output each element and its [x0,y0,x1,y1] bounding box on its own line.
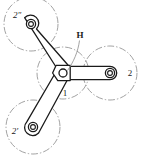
label-bottom-left-circle: 2′ [12,126,20,136]
pivot-right-inner [108,71,113,76]
mechanism-diagram-canvas: 2″ 2 2′ 1 H [0,0,144,158]
pivot-bottom-left-inner [31,125,36,130]
label-right-circle: 2 [128,68,133,78]
center-pivot-outer [59,69,67,77]
mechanism-figure: 2″ 2 2′ 1 H [0,0,144,158]
label-hub: 1 [63,88,68,98]
label-top-left-circle: 2″ [13,10,22,20]
label-leader-h: H [76,30,83,40]
pivot-top-left-inner [29,22,34,27]
